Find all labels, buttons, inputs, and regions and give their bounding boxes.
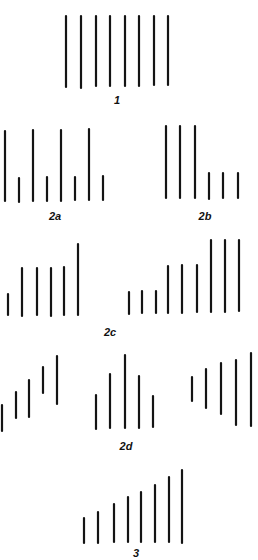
figure-label-2b: 2b bbox=[199, 211, 212, 222]
figure-3-lines bbox=[84, 470, 182, 543]
figure-label-1: 1 bbox=[114, 95, 120, 106]
figure-2a-lines bbox=[5, 129, 103, 202]
figure-2c-lines bbox=[8, 240, 239, 316]
figure-label-2a: 2a bbox=[49, 211, 61, 222]
figure-2d-lines bbox=[2, 353, 251, 431]
figure-label-3: 3 bbox=[133, 548, 139, 559]
figure-label-2d: 2d bbox=[120, 441, 133, 452]
diagram-canvas bbox=[0, 0, 258, 560]
figure-2b-lines bbox=[166, 126, 238, 199]
figure-label-2c: 2c bbox=[104, 327, 116, 338]
figure-1-lines bbox=[66, 16, 168, 88]
